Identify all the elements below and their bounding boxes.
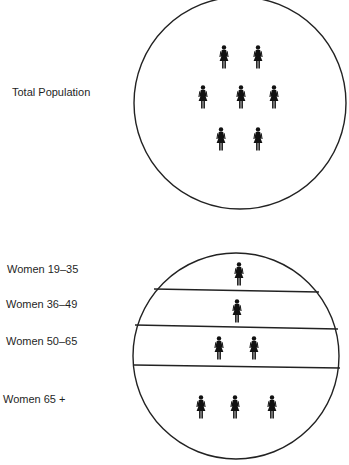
woman-figure-icon: [232, 299, 241, 322]
woman-figure-icon: [253, 127, 262, 150]
band-divider-3: [134, 365, 340, 368]
woman-figure-icon: [236, 85, 245, 108]
band-divider-1: [154, 289, 319, 292]
band-19-35: [234, 262, 243, 285]
woman-figure-icon: [234, 262, 243, 285]
woman-figure-icon: [216, 127, 225, 150]
age-band-circle: [133, 253, 340, 459]
woman-figure-icon: [196, 395, 205, 418]
woman-figure-icon: [219, 45, 228, 68]
woman-figure-icon: [230, 395, 239, 418]
woman-figure-icon: [249, 336, 258, 359]
band-50-65: [214, 336, 258, 359]
band-36-49: [232, 299, 241, 322]
woman-figure-icon: [214, 336, 223, 359]
woman-figure-icon: [267, 395, 276, 418]
woman-figure-icon: [253, 45, 262, 68]
total-population-circle: [134, 0, 346, 209]
woman-figure-icon: [269, 85, 278, 108]
band-65-plus: [196, 395, 276, 418]
woman-figure-icon: [198, 85, 207, 108]
band-divider-2: [135, 325, 338, 329]
